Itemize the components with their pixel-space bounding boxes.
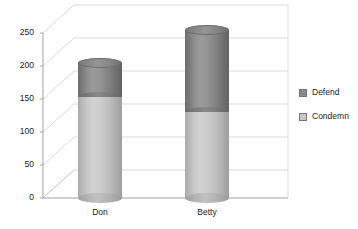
legend-label-defend: Defend bbox=[312, 88, 339, 97]
segment-bottom-cap bbox=[78, 193, 122, 203]
legend-item-defend[interactable]: Defend bbox=[299, 88, 339, 97]
legend-label-condemn: Condemn bbox=[312, 112, 349, 121]
x-tick-label-betty: Betty bbox=[177, 207, 237, 217]
bar-segment-condemn bbox=[185, 112, 229, 198]
segment-body bbox=[185, 112, 229, 198]
bar-don bbox=[78, 58, 122, 204]
legend-swatch-condemn bbox=[299, 113, 307, 121]
segment-body bbox=[185, 30, 229, 112]
legend-swatch-defend bbox=[299, 89, 307, 97]
bar-segment-defend bbox=[78, 63, 122, 97]
chart-container: 250 200 150 100 50 0 bbox=[0, 0, 358, 229]
y-tick-label: 150 bbox=[8, 94, 34, 103]
segment-bottom-cap bbox=[185, 193, 229, 203]
bar-segment-defend bbox=[185, 30, 229, 112]
chart-legend: Defend Condemn bbox=[299, 88, 355, 132]
segment-top-cap bbox=[185, 25, 229, 35]
segment-body bbox=[78, 97, 122, 198]
bar-segment-condemn bbox=[78, 97, 122, 198]
y-tick-label: 250 bbox=[8, 28, 34, 37]
segment-top-cap bbox=[78, 58, 122, 68]
legend-item-condemn[interactable]: Condemn bbox=[299, 112, 349, 121]
y-tick-label: 50 bbox=[8, 160, 34, 169]
bar-betty bbox=[185, 25, 229, 204]
y-tick-label: 0 bbox=[8, 193, 34, 202]
x-tick-label-don: Don bbox=[70, 207, 130, 217]
y-tick-label: 100 bbox=[8, 127, 34, 136]
y-tick-label: 200 bbox=[8, 61, 34, 70]
